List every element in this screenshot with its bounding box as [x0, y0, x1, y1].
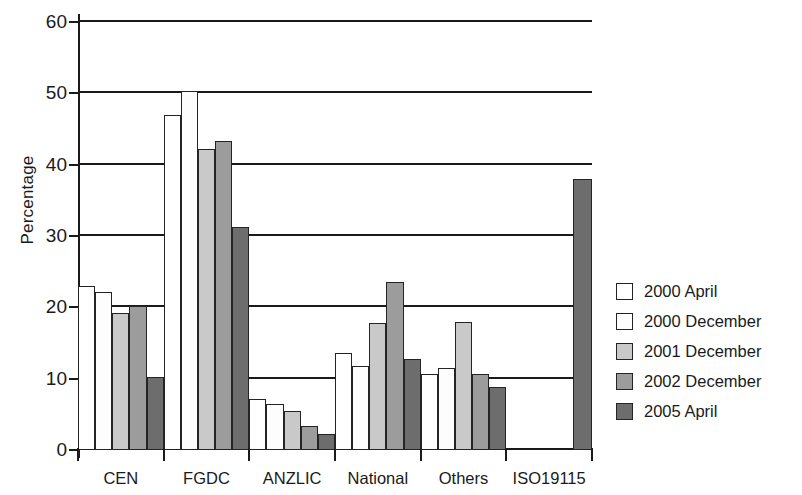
- y-tick-mark-10: [69, 378, 78, 380]
- x-axis-label-national: National: [335, 469, 421, 488]
- x-axis-label-anzlic: ANZLIC: [249, 469, 335, 488]
- x-axis-label-cen: CEN: [78, 469, 164, 488]
- bar-chart: Percentage 0102030405060 CENFGDCANZLICNa…: [0, 0, 802, 495]
- x-tick-mark-iso19115: [591, 448, 593, 461]
- bar-national-series-3[interactable]: [369, 323, 386, 450]
- bar-group-cen: CEN: [78, 22, 164, 450]
- bar-cen-series-4[interactable]: [129, 306, 146, 450]
- bar-groups: CENFGDCANZLICNationalOthersISO19115: [78, 22, 592, 450]
- bar-cen-series-2[interactable]: [95, 292, 112, 450]
- y-axis-title: Percentage: [18, 100, 38, 300]
- bar-group-iso19115: ISO19115: [506, 22, 592, 450]
- y-tick-mark-20: [69, 306, 78, 308]
- bar-cen-series-3[interactable]: [112, 313, 129, 450]
- bar-national-series-2[interactable]: [352, 366, 369, 450]
- x-axis-label-others: Others: [421, 469, 507, 488]
- legend-item-4[interactable]: 2002 December: [616, 366, 761, 396]
- legend-label-4: 2002 December: [644, 372, 761, 391]
- bar-fgdc-series-5[interactable]: [232, 227, 249, 450]
- bars: [335, 22, 421, 450]
- legend-item-5[interactable]: 2005 April: [616, 396, 761, 426]
- bar-anzlic-series-1[interactable]: [249, 399, 266, 450]
- bar-cen-series-1[interactable]: [78, 286, 95, 450]
- bar-others-series-1[interactable]: [421, 374, 438, 450]
- bar-others-series-4[interactable]: [472, 374, 489, 450]
- legend-swatch-5: [616, 403, 633, 420]
- plot-area: 0102030405060 CENFGDCANZLICNationalOther…: [78, 22, 592, 450]
- bar-fgdc-series-3[interactable]: [198, 149, 215, 450]
- bar-group-others: Others: [421, 22, 507, 450]
- bar-group-national: National: [335, 22, 421, 450]
- bars: [164, 22, 250, 450]
- bar-fgdc-series-2[interactable]: [181, 91, 198, 450]
- bar-others-series-2[interactable]: [438, 368, 455, 450]
- y-tick-label-10: 10: [46, 367, 67, 389]
- x-tick-mark-start: [77, 448, 79, 461]
- bar-group-anzlic: ANZLIC: [249, 22, 335, 450]
- bar-iso19115-series-5[interactable]: [573, 179, 592, 450]
- y-tick-mark-30: [69, 235, 78, 237]
- bar-national-series-4[interactable]: [386, 282, 403, 450]
- bars: [506, 22, 592, 450]
- legend-item-2[interactable]: 2000 December: [616, 306, 761, 336]
- bar-anzlic-series-3[interactable]: [284, 411, 301, 450]
- legend-swatch-4: [616, 373, 633, 390]
- bars: [249, 22, 335, 450]
- y-tick-label-30: 30: [46, 225, 67, 247]
- y-tick-label-40: 40: [46, 153, 67, 175]
- bar-national-series-5[interactable]: [404, 359, 421, 450]
- chart-legend: 2000 April2000 December2001 December2002…: [616, 276, 761, 426]
- bar-anzlic-series-4[interactable]: [301, 426, 318, 450]
- legend-swatch-2: [616, 313, 633, 330]
- y-tick-label-0: 0: [56, 439, 67, 461]
- y-tick-label-50: 50: [46, 82, 67, 104]
- legend-item-3[interactable]: 2001 December: [616, 336, 761, 366]
- bars: [78, 22, 164, 450]
- bar-national-series-1[interactable]: [335, 353, 352, 450]
- bar-anzlic-series-5[interactable]: [318, 434, 335, 450]
- y-tick-label-20: 20: [46, 296, 67, 318]
- bar-fgdc-series-4[interactable]: [215, 141, 232, 450]
- x-axis-label-iso19115: ISO19115: [506, 469, 592, 488]
- legend-label-5: 2005 April: [644, 402, 717, 421]
- legend-label-3: 2001 December: [644, 342, 761, 361]
- bar-anzlic-series-2[interactable]: [266, 404, 283, 450]
- bar-others-series-5[interactable]: [489, 387, 506, 450]
- bar-others-series-3[interactable]: [455, 322, 472, 450]
- bar-group-fgdc: FGDC: [164, 22, 250, 450]
- bars: [421, 22, 507, 450]
- legend-swatch-3: [616, 343, 633, 360]
- legend-swatch-1: [616, 283, 633, 300]
- legend-item-1[interactable]: 2000 April: [616, 276, 761, 306]
- bar-cen-series-5[interactable]: [147, 377, 164, 450]
- y-tick-label-60: 60: [46, 11, 67, 33]
- legend-label-2: 2000 December: [644, 312, 761, 331]
- bar-fgdc-series-1[interactable]: [164, 115, 181, 450]
- y-tick-mark-60: [69, 21, 78, 23]
- y-tick-mark-50: [69, 92, 78, 94]
- y-tick-mark-40: [69, 164, 78, 166]
- x-axis-label-fgdc: FGDC: [164, 469, 250, 488]
- legend-label-1: 2000 April: [644, 282, 717, 301]
